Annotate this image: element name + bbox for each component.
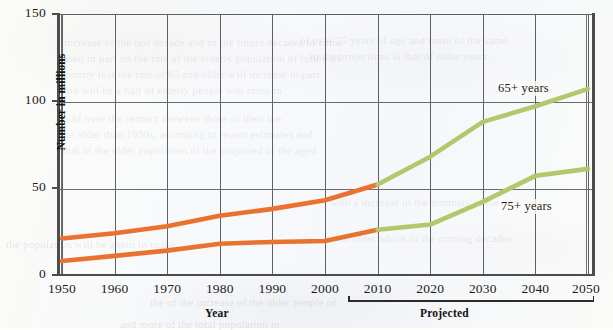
series-line-65-years-projected <box>378 89 588 185</box>
series-label-65-plus: 65+ years <box>496 81 551 96</box>
series-line-75-years-projected <box>378 169 588 230</box>
series-label-75-plus: 75+ years <box>499 199 554 214</box>
series-line-65-years-historical <box>62 185 378 239</box>
